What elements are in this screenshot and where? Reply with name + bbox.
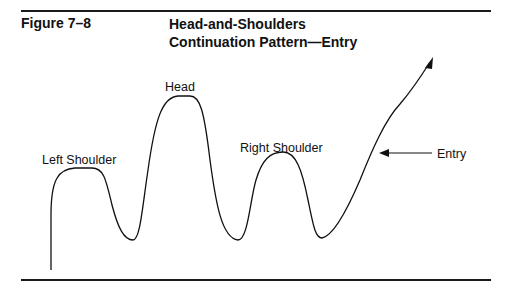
trend-arrowhead-icon	[425, 57, 433, 69]
pattern-chart: Left Shoulder Head Right Shoulder Entry	[0, 0, 510, 289]
label-right-shoulder: Right Shoulder	[240, 141, 323, 155]
bottom-rule	[21, 279, 491, 281]
entry-arrowhead-icon	[379, 149, 389, 157]
label-head: Head	[165, 80, 195, 94]
label-left-shoulder: Left Shoulder	[42, 153, 116, 167]
label-entry: Entry	[437, 147, 467, 161]
